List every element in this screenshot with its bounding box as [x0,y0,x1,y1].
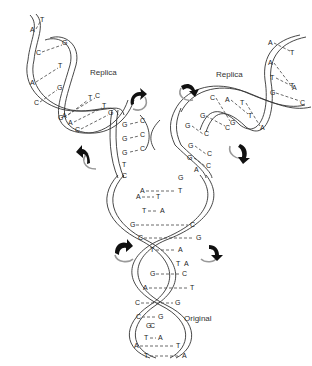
rotation-arrow-right-upper [180,84,199,100]
fork-right-bases: GCGCGCAG [178,122,212,181]
hydrogen-bond [194,158,205,166]
replication-fork: GCGCGCTC GCGCGCAG [110,108,212,181]
hydrogen-bond [130,136,139,138]
base-A: A [30,26,35,33]
base-A: A [184,260,189,267]
base-T: T [270,74,275,81]
base-T: T [176,342,181,349]
replica-right-helix: ATATTAGCCGATTAGC [175,35,311,132]
base-T: T [156,193,161,200]
base-A: A [225,96,230,103]
label-original: Original [184,314,212,323]
base-T: T [88,94,93,101]
base-C: C [140,131,145,138]
base-G: G [108,109,113,116]
base-C: C [136,313,141,320]
base-G: G [270,89,275,96]
base-G: G [230,119,235,126]
hydrogen-bond [274,43,290,51]
base-G: G [122,121,127,128]
base-G: G [178,174,183,181]
hydrogen-bond [130,122,139,124]
base-C: C [206,162,211,169]
base-C: C [140,117,145,124]
base-C: C [75,126,80,133]
replica-left-helix: ATCGATCGGCATCGAT [27,14,134,133]
base-C: C [207,150,212,157]
rotation-arrow-original-right [201,245,223,262]
base-G: G [150,270,155,277]
hydrogen-bond [276,93,300,101]
base-A: A [268,59,273,66]
base-C: C [190,221,195,228]
base-A: A [182,352,187,359]
base-C: C [36,49,41,56]
base-A: A [62,112,67,119]
hydrogen-bond [68,100,88,115]
base-A: A [160,207,165,214]
hydrogen-bond [36,22,40,29]
base-T: T [142,207,147,214]
base-T: T [144,334,149,341]
base-G: G [187,154,192,161]
base-C: C [225,124,230,131]
base-C: C [122,172,127,179]
base-C: C [135,299,140,306]
base-G: G [196,234,201,241]
base-A: A [260,124,265,131]
base-A: A [178,246,183,253]
hydrogen-bond [42,45,62,52]
base-G: G [185,122,190,129]
base-T: T [40,16,45,23]
base-G: G [122,135,127,142]
base-C: C [34,99,39,106]
rotation-arrow-left-upper [131,88,147,110]
base-T: T [240,99,245,106]
base-A: A [158,334,163,341]
base-T: T [176,260,181,267]
base-T: T [102,102,107,109]
rotation-arrow-original-left [115,239,133,262]
label-replica-left: Replica [90,68,117,77]
base-A: A [194,166,199,173]
base-G: G [130,221,135,228]
original-base-pairs: ATATTAGCCGTATAGCATCGCGGCTAATTA [130,187,201,359]
base-T: T [144,352,149,359]
base-A: A [68,119,73,126]
replica-right-base-pairs: ATATTAGCCGATTAGC [200,39,305,131]
hydrogen-bond [195,146,206,154]
base-A: A [134,342,139,349]
fork-left-bases: GCGCGCTC [122,117,145,179]
base-T: T [58,62,63,69]
base-T: T [122,161,127,168]
hydrogen-bond [81,115,108,129]
base-T: T [290,49,295,56]
base-A: A [292,84,297,91]
base-A: A [140,187,145,194]
base-C: C [140,145,145,152]
base-A: A [143,284,148,291]
dna-replication-diagram: ATATTAGCCGTATAGCATCGCGGCTAATTA GCGCGCTC … [0,0,312,366]
base-A: A [268,39,273,46]
base-C: C [210,94,215,101]
base-A: A [136,193,141,200]
base-T: T [190,284,195,291]
hydrogen-bond [130,150,139,152]
hydrogen-bond [36,68,58,82]
base-G: G [122,149,127,156]
rotation-arrow-right-lower [230,144,250,164]
base-G: G [158,313,163,320]
base-C: C [138,234,143,241]
base-C: C [182,270,187,277]
label-replica-right: Replica [216,70,243,79]
base-C: C [95,92,100,99]
base-C: C [150,322,155,329]
base-C: C [300,99,305,106]
base-G: G [57,84,62,91]
base-G: G [188,142,193,149]
rotation-arrow-left-lower [76,145,96,169]
original-helix: ATATTAGCCGTATAGCATCGCGGCTAATTA [107,175,214,359]
base-G: G [175,299,180,306]
base-T: T [150,246,155,253]
base-G: G [62,39,67,46]
